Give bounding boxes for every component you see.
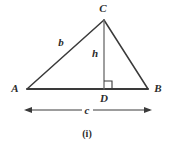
side-label-h: h — [92, 48, 98, 59]
figure-canvas — [0, 0, 170, 148]
vertex-label-a: A — [11, 83, 18, 94]
vertex-label-b: B — [154, 83, 161, 94]
triangle-side-cb — [104, 20, 148, 89]
dimension-arrowhead-left-icon — [24, 107, 32, 113]
vertex-label-d: D — [100, 93, 108, 104]
vertex-label-c: C — [99, 3, 106, 14]
side-label-b: b — [58, 37, 64, 48]
geometry-figure: A B C D b h c (i) — [0, 0, 170, 148]
right-angle-marker-icon — [104, 81, 112, 89]
dimension-arrowhead-right-icon — [144, 107, 152, 113]
side-label-c: c — [85, 105, 90, 116]
figure-caption: (i) — [82, 129, 91, 139]
